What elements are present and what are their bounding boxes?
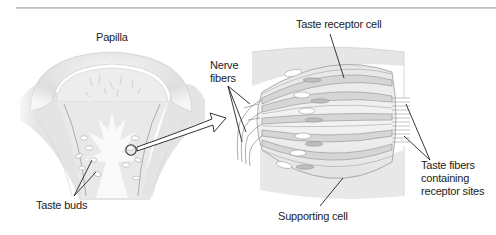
label-taste-buds: Taste buds — [36, 199, 87, 212]
papilla-illustration — [14, 52, 205, 210]
label-supporting-cell: Supporting cell — [278, 210, 348, 223]
label-taste-fibers-line2: containing — [421, 172, 484, 185]
taste-bud-illustration — [237, 47, 410, 199]
label-taste-fibers-line1: Taste fibers — [421, 159, 484, 172]
label-nerve-fibers: Nerve fibers — [210, 59, 238, 85]
label-taste-fibers-line3: receptor sites — [421, 185, 484, 198]
label-taste-fibers: Taste fibers containing receptor sites — [421, 159, 484, 198]
taste-bud-diagram: Papilla Nerve fibers Taste receptor cell… — [0, 0, 496, 235]
label-nerve-fibers-line1: Nerve — [210, 59, 238, 72]
label-nerve-fibers-line2: fibers — [210, 72, 238, 85]
label-taste-receptor-cell: Taste receptor cell — [296, 18, 381, 31]
label-papilla: Papilla — [96, 31, 128, 44]
